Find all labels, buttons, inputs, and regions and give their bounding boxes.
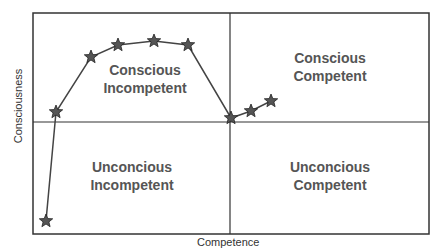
- star-marker-icon: [181, 38, 194, 51]
- matrix-border: [33, 13, 429, 234]
- x-axis-label: Competence: [197, 236, 259, 248]
- quadrant-label-line1: Conscious: [85, 61, 205, 79]
- competence-matrix-diagram: Conscious Incompetent Conscious Competen…: [0, 0, 446, 251]
- star-marker-icon: [39, 214, 52, 227]
- star-marker-icon: [264, 94, 277, 107]
- y-axis-label: Consciousness: [12, 66, 24, 146]
- quadrant-label-line2: Incompetent: [72, 176, 192, 194]
- quadrant-label-line1: Conscious: [270, 49, 390, 67]
- quadrant-label-line2: Competent: [270, 67, 390, 85]
- quadrant-label-line2: Competent: [270, 176, 390, 194]
- star-marker-icon: [111, 38, 124, 51]
- quadrant-label-line2: Incompetent: [85, 79, 205, 97]
- star-marker-icon: [244, 104, 257, 117]
- quadrant-conscious-competent: Conscious Competent: [270, 49, 390, 85]
- matrix-svg: [0, 0, 446, 251]
- quadrant-conscious-incompetent: Conscious Incompetent: [85, 61, 205, 97]
- quadrant-label-line1: Unconcious: [72, 158, 192, 176]
- quadrant-label-line1: Unconcious: [270, 158, 390, 176]
- quadrant-unconcious-incompetent: Unconcious Incompetent: [72, 158, 192, 194]
- star-marker-icon: [147, 34, 160, 47]
- quadrant-unconcious-competent: Unconcious Competent: [270, 158, 390, 194]
